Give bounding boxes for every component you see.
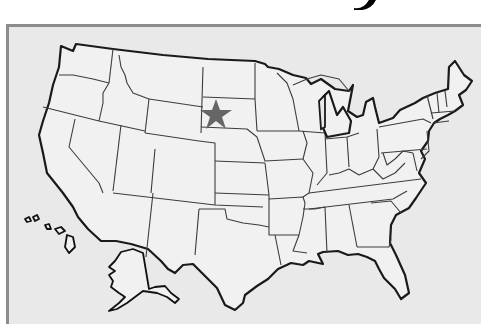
- hawaii-inset: [25, 215, 75, 253]
- us-map-svg: [9, 27, 484, 327]
- title-fragment: [350, 0, 390, 10]
- lake-michigan: [319, 95, 325, 129]
- us-map: [6, 24, 481, 324]
